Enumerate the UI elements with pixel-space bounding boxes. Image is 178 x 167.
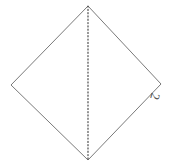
diamond-fold-diagram [0, 0, 178, 167]
rhombus-outline [11, 6, 161, 160]
figure-canvas: 2 [0, 0, 178, 167]
